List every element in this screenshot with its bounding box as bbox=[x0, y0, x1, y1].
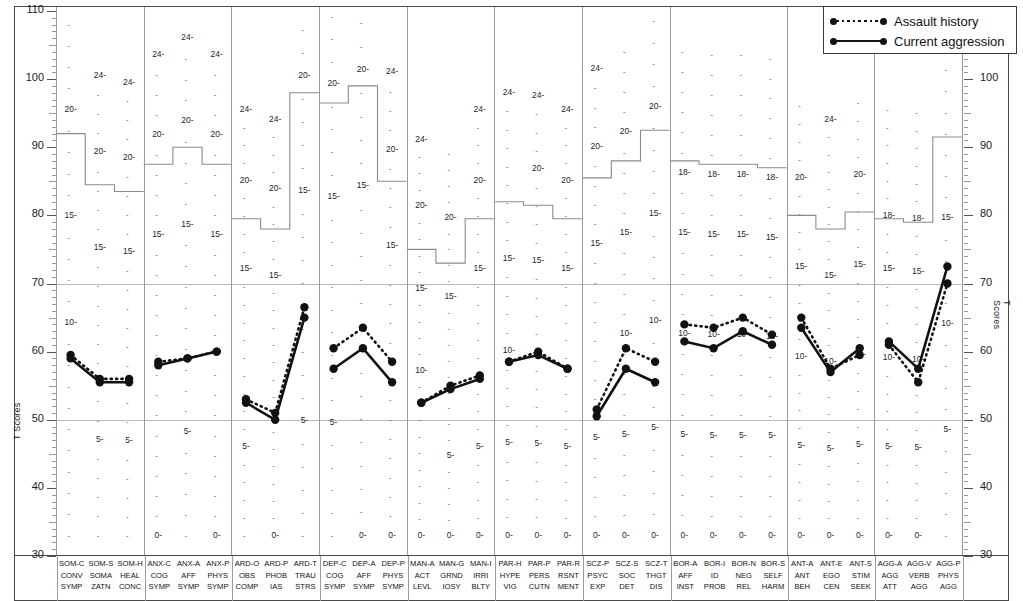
y-axis-right-tick bbox=[964, 79, 973, 80]
raw-score-tick: - bbox=[711, 131, 714, 139]
raw-score-tick: - bbox=[711, 271, 714, 279]
raw-score-tick: - bbox=[155, 351, 158, 359]
raw-score-tick: - bbox=[711, 472, 714, 480]
raw-score-tick: - bbox=[886, 141, 889, 149]
raw-score-label: 5- bbox=[87, 435, 113, 444]
raw-score-label: 5- bbox=[759, 431, 785, 440]
raw-score-tick: - bbox=[331, 509, 334, 517]
raw-score-label: 24- bbox=[145, 50, 171, 59]
raw-score-tick: - bbox=[418, 515, 421, 523]
raw-score-tick: - bbox=[272, 376, 275, 384]
raw-score-label: 24- bbox=[408, 135, 434, 144]
y-axis-right-minor-tick bbox=[964, 120, 968, 121]
raw-score-tick: - bbox=[126, 381, 129, 389]
raw-score-label: 5- bbox=[321, 418, 347, 427]
raw-score-tick: - bbox=[886, 106, 889, 114]
raw-score-tick: - bbox=[711, 91, 714, 99]
raw-score-tick: - bbox=[681, 249, 684, 257]
raw-score-tick: - bbox=[331, 216, 334, 224]
name-separator-MAN bbox=[495, 556, 496, 601]
raw-score-label: 15- bbox=[291, 186, 317, 195]
y-axis-right-minor-tick bbox=[964, 481, 968, 482]
raw-score-tick: - bbox=[944, 468, 947, 476]
raw-score-tick: - bbox=[681, 209, 684, 217]
raw-score-tick: - bbox=[769, 313, 772, 321]
raw-score-tick: - bbox=[272, 168, 275, 176]
y-axis-right-minor-tick bbox=[964, 502, 968, 503]
raw-score-tick: - bbox=[827, 133, 830, 141]
raw-score-tick: - bbox=[623, 511, 626, 519]
raw-score-tick: - bbox=[68, 84, 71, 92]
y-axis-right-minor-tick bbox=[964, 433, 968, 434]
raw-score-tick: - bbox=[711, 411, 714, 419]
raw-score-tick: - bbox=[681, 471, 684, 479]
y-axis-right-minor-tick bbox=[964, 134, 968, 135]
raw-score-tick: - bbox=[301, 49, 304, 57]
raw-score-tick: - bbox=[915, 127, 918, 135]
raw-score-label: 20- bbox=[87, 147, 113, 156]
raw-score-label: 5- bbox=[788, 441, 814, 450]
raw-score-tick: - bbox=[623, 290, 626, 298]
raw-score-tick: - bbox=[360, 322, 363, 330]
raw-score-tick: - bbox=[243, 230, 246, 238]
y-axis-left-minor-tick bbox=[49, 249, 56, 250]
raw-score-label: 0- bbox=[145, 531, 171, 540]
raw-score-tick: - bbox=[68, 63, 71, 71]
raw-score-tick: - bbox=[360, 206, 363, 214]
raw-score-tick: - bbox=[740, 191, 743, 199]
raw-score-tick: - bbox=[564, 319, 567, 327]
raw-score-tick: - bbox=[155, 111, 158, 119]
raw-score-tick: - bbox=[944, 151, 947, 159]
raw-score-tick: - bbox=[360, 229, 363, 237]
raw-score-label: 10- bbox=[876, 353, 902, 362]
raw-score-tick: - bbox=[126, 399, 129, 407]
raw-score-tick: - bbox=[126, 97, 129, 105]
raw-score-tick: - bbox=[448, 484, 451, 492]
raw-score-tick: - bbox=[594, 473, 597, 481]
y-axis-right-minor-tick bbox=[964, 495, 968, 496]
raw-score-tick: - bbox=[535, 239, 538, 247]
raw-score-label: 15- bbox=[554, 264, 580, 273]
raw-score-tick: - bbox=[126, 513, 129, 521]
raw-score-label: 15- bbox=[905, 267, 931, 276]
y-axis-right-minor-tick bbox=[964, 331, 968, 332]
raw-score-tick: - bbox=[301, 164, 304, 172]
raw-score-tick: - bbox=[214, 452, 217, 460]
raw-score-tick: - bbox=[886, 372, 889, 380]
y-axis-right-minor-tick bbox=[964, 263, 968, 264]
raw-score-tick: - bbox=[360, 438, 363, 446]
raw-score-tick: - bbox=[827, 255, 830, 263]
raw-score-tick: - bbox=[535, 367, 538, 375]
raw-score-tick: - bbox=[389, 281, 392, 289]
raw-score-tick: - bbox=[331, 464, 334, 472]
raw-score-tick: - bbox=[477, 319, 480, 327]
raw-score-tick: - bbox=[798, 514, 801, 522]
y-axis-left-minor-tick bbox=[49, 318, 56, 319]
raw-score-tick: - bbox=[857, 117, 860, 125]
raw-score-tick: - bbox=[389, 358, 392, 366]
raw-score-label: 0- bbox=[496, 531, 522, 540]
group-separator-SOM bbox=[144, 7, 145, 555]
raw-score-tick: - bbox=[769, 94, 772, 102]
raw-score-tick: - bbox=[798, 192, 801, 200]
raw-score-tick: - bbox=[681, 270, 684, 278]
raw-score-tick: - bbox=[886, 194, 889, 202]
raw-score-label: 0- bbox=[788, 531, 814, 540]
raw-score-label: 0- bbox=[379, 531, 405, 540]
raw-score-tick: - bbox=[243, 514, 246, 522]
raw-score-tick: - bbox=[652, 296, 655, 304]
raw-score-tick: - bbox=[360, 136, 363, 144]
raw-score-tick: - bbox=[68, 234, 71, 242]
raw-score-tick: - bbox=[126, 362, 129, 370]
raw-score-tick: - bbox=[243, 390, 246, 398]
plot-left-separator bbox=[56, 7, 57, 555]
scale-line2: AGG bbox=[930, 581, 966, 593]
raw-score-tick: - bbox=[155, 151, 158, 159]
raw-score-tick: - bbox=[185, 366, 188, 374]
y-axis-right-minor-tick bbox=[964, 140, 968, 141]
raw-score-label: 15- bbox=[730, 230, 756, 239]
raw-score-tick: - bbox=[477, 194, 480, 202]
raw-score-tick: - bbox=[214, 472, 217, 480]
raw-score-tick: - bbox=[857, 423, 860, 431]
raw-score-tick: - bbox=[97, 397, 100, 405]
